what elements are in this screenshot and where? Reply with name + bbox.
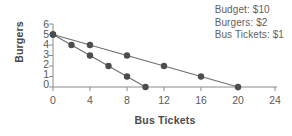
data-point — [198, 73, 204, 79]
data-point — [87, 52, 93, 58]
data-point — [68, 42, 74, 48]
plot-area — [0, 0, 292, 136]
axes — [53, 24, 277, 87]
data-point — [161, 63, 167, 69]
series-steep-budget-line — [50, 31, 149, 90]
x-axis-ticks — [53, 87, 275, 91]
data-point — [142, 84, 148, 90]
data-point — [235, 84, 241, 90]
data-point — [50, 31, 56, 37]
data-point — [87, 42, 93, 48]
series-line-shallow — [53, 35, 238, 88]
chart-container: Budget: $10 Burgers: $2 Bus Tickets: $1 … — [0, 0, 292, 136]
series-shallow-budget-line — [50, 31, 241, 90]
data-point — [124, 52, 130, 58]
data-point — [105, 63, 111, 69]
series-line-steep — [53, 35, 146, 88]
data-point — [124, 73, 130, 79]
